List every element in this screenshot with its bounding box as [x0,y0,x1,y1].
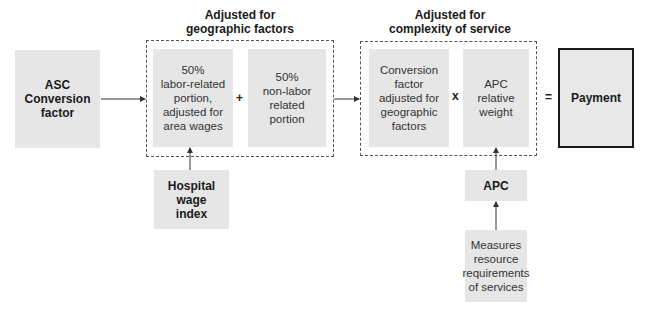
connector-layer [0,0,647,309]
